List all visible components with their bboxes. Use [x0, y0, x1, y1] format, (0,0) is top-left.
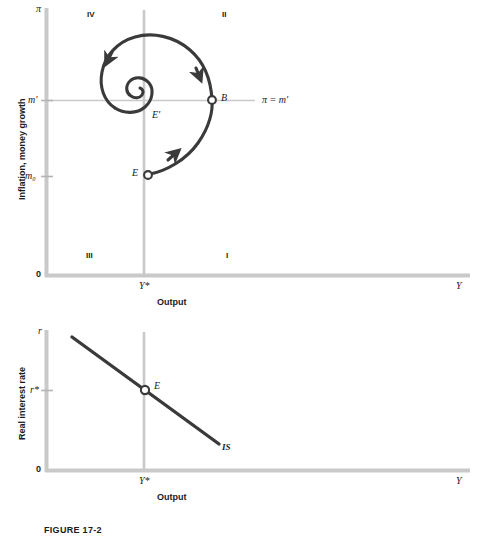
pi-equals-m-prime-label: π = m' [262, 95, 288, 105]
top-tick-label-y-star: Y* [139, 281, 150, 291]
top-x-axis-title: Output [157, 298, 187, 307]
bottom-tick-label-y-star: Y* [139, 476, 150, 486]
quadrant-label-ii: II [222, 11, 226, 19]
bottom-y-axis-symbol: r [38, 326, 42, 336]
top-point-label-E-prime: E' [152, 110, 160, 120]
quadrant-label-i: I [226, 252, 228, 260]
top-y-axis-title: Inflation, money growth [18, 99, 27, 201]
top-panel-axes [41, 8, 470, 277]
spiral-arc-B-to-left [101, 35, 212, 108]
spiral-arc-inward-to-E-prime [115, 78, 152, 113]
bottom-x-axis-symbol: Y [456, 476, 462, 486]
bottom-panel-axes [41, 330, 470, 472]
top-point-B-marker [208, 96, 216, 104]
top-point-label-E: E [132, 168, 138, 178]
spiral-arrow-upper-right [196, 68, 200, 78]
top-panel-spiral-path [101, 35, 212, 174]
figure-graphics [0, 0, 482, 536]
bottom-tick-label-r-star: r* [30, 385, 39, 395]
bottom-origin-label: 0 [36, 465, 41, 474]
figure-caption-label: FIGURE 17-2 [44, 526, 102, 535]
top-point-label-B: B [221, 93, 227, 103]
bottom-y-axis-title: Real interest rate [18, 367, 27, 440]
spiral-arrowheads [107, 52, 200, 160]
top-tick-label-m-prime: m' [28, 95, 37, 105]
top-origin-label: 0 [36, 270, 41, 279]
figure-container: π Inflation, money growth m' m₀ 0 Y* Y O… [0, 0, 482, 536]
spiral-arrow-lower-right [168, 152, 177, 160]
bottom-point-E-marker [141, 386, 149, 394]
top-y-axis-symbol: π [36, 4, 41, 14]
bottom-x-axis-title: Output [157, 493, 187, 502]
quadrant-label-iv: IV [87, 11, 95, 19]
bottom-point-label-E: E [154, 381, 160, 391]
quadrant-label-iii: III [86, 252, 93, 260]
top-point-E-marker [144, 171, 152, 179]
top-x-axis-symbol: Y [456, 281, 462, 291]
is-curve-label: IS [222, 443, 231, 452]
top-tick-label-m-zero: m₀ [25, 171, 36, 181]
